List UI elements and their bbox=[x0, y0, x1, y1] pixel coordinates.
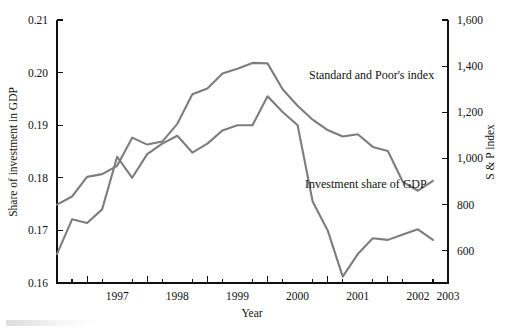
x-tick-label: 2002 bbox=[406, 290, 429, 302]
axis-frame-lines bbox=[57, 20, 448, 283]
y-axis-right-ticks bbox=[442, 20, 448, 251]
x-axis-tick-labels: 1997199819992000200120022003 bbox=[106, 290, 460, 302]
x-tick-label: 2001 bbox=[346, 290, 369, 302]
y-axis-right-tick-labels: 6008001,0001,2001,4001,600 bbox=[457, 14, 483, 257]
figure-root: 0.160.170.180.190.200.21 6008001,0001,20… bbox=[0, 0, 507, 331]
y-left-tick-label: 0.19 bbox=[28, 119, 48, 131]
x-tick-label: 1997 bbox=[106, 290, 129, 302]
y-left-tick-label: 0.16 bbox=[28, 277, 48, 289]
y-axis-left-tick-labels: 0.160.170.180.190.200.21 bbox=[28, 14, 48, 289]
y-right-tick-label: 1,600 bbox=[457, 14, 483, 27]
y-right-tick-label: 800 bbox=[457, 199, 475, 211]
y-right-tick-label: 1,400 bbox=[457, 60, 483, 73]
y-right-tick-label: 1,000 bbox=[457, 152, 483, 165]
y-right-tick-label: 600 bbox=[457, 245, 475, 257]
y-left-tick-label: 0.20 bbox=[28, 67, 48, 79]
y-axis-right-title: S & P index bbox=[484, 124, 496, 180]
y-axis-left-title: Share of investment in GDP bbox=[7, 87, 19, 217]
plot-frame bbox=[57, 20, 448, 283]
y-right-tick-label: 1,200 bbox=[457, 106, 483, 119]
caption-edge-artifact bbox=[6, 320, 98, 326]
series-annotation-labels: Standard and Poor's indexInvestment shar… bbox=[305, 68, 434, 191]
x-axis-title: Year bbox=[241, 307, 262, 319]
x-axis-ticks bbox=[72, 276, 448, 283]
x-tick-label: 1999 bbox=[226, 290, 249, 302]
x-tick-label: 1998 bbox=[166, 290, 189, 302]
annotation-sp-index: Standard and Poor's index bbox=[309, 68, 434, 82]
y-left-tick-label: 0.18 bbox=[28, 172, 48, 184]
x-tick-label: 2000 bbox=[286, 290, 309, 302]
annotation-investment-share: Investment share of GDP bbox=[305, 177, 427, 191]
series-lines bbox=[57, 63, 433, 277]
dual-axis-line-chart: 0.160.170.180.190.200.21 6008001,0001,20… bbox=[0, 0, 507, 331]
x-tick-label: 2003 bbox=[437, 290, 460, 302]
y-left-tick-label: 0.17 bbox=[28, 224, 48, 236]
y-left-tick-label: 0.21 bbox=[28, 14, 48, 26]
